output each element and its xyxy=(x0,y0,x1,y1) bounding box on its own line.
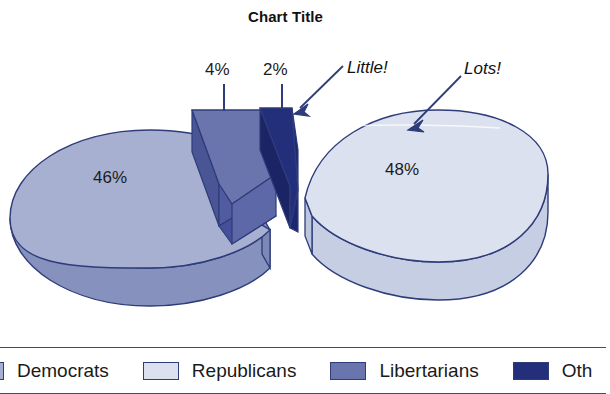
legend-item-republicans[interactable]: Republicans xyxy=(143,360,331,382)
slice-label-libertarians: 4% xyxy=(205,60,230,80)
slice-label-democrats: 46% xyxy=(93,168,127,188)
legend-item-democrats[interactable]: Democrats xyxy=(0,360,143,382)
slice-label-republicans: 48% xyxy=(385,160,419,180)
legend-swatch-republicans xyxy=(143,362,179,380)
slice-label-others: 2% xyxy=(263,60,288,80)
legend-item-others[interactable]: Oth xyxy=(513,360,610,382)
legend-swatch-others xyxy=(513,362,549,380)
legend-label-others: Oth xyxy=(562,360,593,382)
pie-chart-graphic xyxy=(0,0,571,347)
legend-item-libertarians[interactable]: Libertarians xyxy=(330,360,512,382)
annotation-lots: Lots! xyxy=(464,59,501,79)
pie-slice-republicans[interactable] xyxy=(305,110,548,300)
legend-label-libertarians: Libertarians xyxy=(379,360,478,382)
legend-swatch-democrats xyxy=(0,362,4,380)
legend-swatch-libertarians xyxy=(330,362,366,380)
legend-label-democrats: Democrats xyxy=(17,360,109,382)
chart-legend: Democrats Republicans Libertarians Oth xyxy=(0,347,606,394)
legend-label-republicans: Republicans xyxy=(192,360,297,382)
annotation-little: Little! xyxy=(347,58,388,78)
annotation-arrow-little xyxy=(294,66,343,116)
